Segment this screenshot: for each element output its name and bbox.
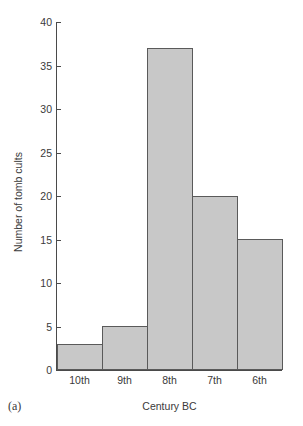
- figure-label: (a): [8, 399, 21, 413]
- bar: [237, 239, 283, 370]
- y-axis-tick-label: 40: [0, 17, 52, 27]
- y-axis-tick-label: 15: [0, 235, 52, 245]
- x-axis-tick-label: 10th: [57, 374, 102, 386]
- bar: [192, 196, 238, 370]
- bar: [147, 48, 193, 370]
- y-axis-tick-label: 0: [0, 365, 52, 375]
- y-axis-tick-label: 30: [0, 104, 52, 114]
- x-axis-tick-label: 8th: [147, 374, 192, 386]
- x-axis-title: Century BC: [57, 400, 282, 412]
- y-axis-tick-label: 35: [0, 61, 52, 71]
- y-axis-title: Number of tomb cults: [12, 122, 24, 282]
- x-axis-line: [56, 370, 282, 371]
- figure-container: 0510152025303540 10th9th8th7th6th Centur…: [0, 0, 303, 426]
- x-axis-tick-label: 7th: [192, 374, 237, 386]
- y-axis-tick-label: 10: [0, 278, 52, 288]
- y-axis-tick-label: 5: [0, 322, 52, 332]
- y-axis-tick-label: 20: [0, 191, 52, 201]
- x-axis-tick-label: 9th: [102, 374, 147, 386]
- plot-area: [57, 22, 282, 370]
- y-axis-tick-label: 25: [0, 148, 52, 158]
- bar: [57, 344, 103, 370]
- y-axis-tick: [57, 370, 61, 371]
- x-axis-tick-label: 6th: [237, 374, 282, 386]
- bar: [102, 326, 148, 370]
